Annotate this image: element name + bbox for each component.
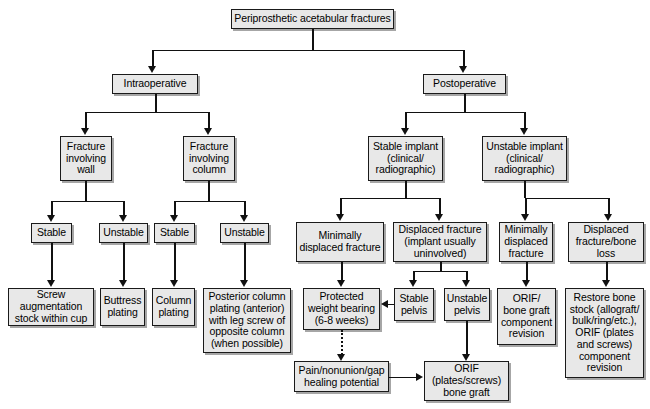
connector-stable-implant-bar [340, 198, 440, 200]
node-intraoperative: Intraoperative [112, 74, 198, 94]
arrow-to-column-unstable [240, 215, 248, 222]
node-orif-bone-graft-component-revision: ORIF/ bone graft component revision [497, 288, 556, 345]
arrow-to-unstable-minimally-displaced [521, 214, 529, 221]
node-stable-pelvis: Stable pelvis [394, 288, 434, 321]
connector-postoperative-stem [464, 94, 466, 112]
connector-intra-to-column [208, 112, 210, 129]
node-restore-bone-stock: Restore bone stock (allograft/ bulk/ring… [565, 288, 644, 378]
arrow-to-orif-right [416, 373, 423, 381]
node-fracture-involving-wall: Fracture involving wall [60, 136, 112, 181]
arrow-to-unstable-pelvis [462, 280, 470, 287]
arrow-to-postoperative [459, 66, 467, 73]
connector-column-stable-down [174, 243, 176, 281]
connector-wall-unstable-down [123, 243, 125, 281]
node-stable-displaced-fracture: Displaced fracture (implant usually unin… [393, 222, 487, 262]
connector-ui-to-mindisp [525, 198, 527, 215]
node-unstable-pelvis: Unstable pelvis [444, 288, 490, 321]
arrow-to-wall-unstable [119, 215, 127, 222]
arrow-to-stable-pelvis [409, 280, 417, 287]
node-pain-nonunion-gap: Pain/nonunion/gap healing potential [294, 361, 389, 392]
connector-intraoperative-stem [155, 94, 157, 112]
arrow-to-protected-weight-bearing [337, 280, 345, 287]
connector-stable-implant-stem [405, 181, 407, 198]
connector-stable-pelvis-to-pwb [388, 304, 394, 306]
connector-root-stem [312, 29, 314, 50]
node-unstable-implant: Unstable implant (clinical/ radiographic… [482, 136, 567, 181]
connector-column-to-unstable [244, 201, 246, 216]
node-column-unstable: Unstable [220, 223, 269, 243]
node-orif-plates-screws: ORIF (plates/screws) bone graft [424, 361, 509, 401]
arrow-to-fracture-column [204, 128, 212, 135]
arrow-to-intraoperative [148, 66, 156, 73]
connector-pain-to-orif [389, 377, 417, 379]
arrow-to-orif-plates-screws [462, 354, 470, 361]
node-stable-minimally-displaced-fracture: Minimally displaced fracture [296, 222, 384, 262]
arrow-to-protected-weight-bearing-left [381, 300, 388, 308]
node-unstable-displaced-fracture: Displaced fracture/bone loss [568, 222, 644, 262]
connector-root-to-intraoperative [152, 50, 154, 67]
arrow-to-unstable-displaced [604, 214, 612, 221]
node-column-plating: Column plating [152, 288, 195, 326]
arrow-to-posterior-column-plating [240, 280, 248, 287]
node-unstable-minimally-displaced-fracture: Minimally displaced fracture [499, 222, 553, 262]
connector-unstable-implant-bar [525, 198, 609, 200]
connector-si-to-mindisp [340, 198, 342, 215]
node-postoperative: Postoperative [423, 74, 506, 94]
connector-unstable-implant-stem [524, 181, 526, 198]
arrow-to-fracture-wall [81, 128, 89, 135]
node-root: Periprosthetic acetabular fractures [231, 9, 394, 29]
connector-disp-bar [413, 271, 467, 273]
node-wall-unstable: Unstable [99, 223, 148, 243]
connector-column-bar [174, 201, 245, 203]
connector-pwb-to-pain-dotted [341, 330, 343, 355]
arrow-to-stable-displaced [435, 214, 443, 221]
connector-root-to-postoperative [463, 50, 465, 67]
connector-umd-to-orif-revision [526, 262, 528, 281]
connector-intra-to-wall [85, 112, 87, 129]
node-column-stable: Stable [154, 223, 195, 243]
node-protected-weight-bearing: Protected weight bearing (6-8 weeks) [303, 288, 380, 330]
connector-wall-stem [85, 181, 87, 201]
connector-ud-to-restore-bone-stock [606, 262, 608, 281]
connector-wall-to-stable [51, 201, 53, 216]
arrow-to-pain-nonunion [337, 354, 345, 361]
connector-wall-stable-down [51, 243, 53, 281]
node-buttress-plating: Buttress plating [100, 288, 145, 326]
connector-root-bar [152, 50, 464, 52]
connector-post-to-unstable-implant [524, 112, 526, 129]
arrow-to-unstable-implant [520, 128, 528, 135]
node-posterior-column-plating: Posterior column plating (anterior) with… [203, 288, 291, 353]
arrow-to-wall-stable [47, 215, 55, 222]
connector-postoperative-bar [405, 112, 525, 114]
connector-ui-to-disp [608, 198, 610, 215]
flowchart-canvas: Periprosthetic acetabular fractures Intr… [0, 0, 650, 409]
arrow-to-stable-minimally-displaced [336, 214, 344, 221]
node-stable-implant: Stable implant (clinical/ radiographic) [368, 136, 443, 181]
arrow-to-column-plating [170, 280, 178, 287]
arrow-to-restore-bone-stock [602, 280, 610, 287]
arrow-to-column-stable [170, 215, 178, 222]
node-fracture-involving-column: Fracture involving column [183, 136, 235, 181]
node-wall-stable: Stable [31, 223, 72, 243]
arrow-to-orif-bone-graft-revision [522, 280, 530, 287]
connector-si-to-disp [439, 198, 441, 215]
connector-post-to-stable-implant [405, 112, 407, 129]
arrow-to-screw-augmentation [47, 280, 55, 287]
connector-wall-bar [51, 201, 124, 203]
connector-intraoperative-bar [85, 112, 209, 114]
arrow-to-buttress-plating [119, 280, 127, 287]
connector-column-to-stable [174, 201, 176, 216]
arrow-to-stable-implant [401, 128, 409, 135]
connector-column-unstable-down [244, 243, 246, 281]
connector-unstable-pelvis-to-orif [466, 321, 468, 355]
connector-mindisp-to-pwb [341, 262, 343, 281]
node-screw-augmentation: Screw augmentation stock within cup [8, 288, 94, 326]
connector-wall-to-unstable [123, 201, 125, 216]
connector-column-stem [208, 181, 210, 201]
